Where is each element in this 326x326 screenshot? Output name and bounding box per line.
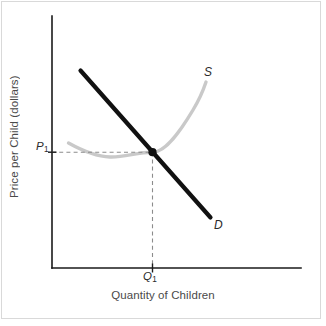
supply-demand-figure: Price per Child (dollars) Quantity of Ch… bbox=[0, 0, 326, 326]
quantity-equilibrium-subscript: 1 bbox=[152, 275, 157, 284]
supply-curve-label: S bbox=[204, 66, 212, 78]
plot-canvas bbox=[0, 0, 326, 326]
price-equilibrium-label: P1 bbox=[36, 141, 48, 153]
quantity-equilibrium-letter: Q bbox=[143, 270, 152, 282]
demand-curve-label: D bbox=[214, 219, 223, 231]
demand-curve-path bbox=[81, 71, 211, 218]
supply-curve-path bbox=[69, 82, 207, 157]
quantity-equilibrium-label: Q1 bbox=[143, 271, 157, 283]
price-equilibrium-letter: P bbox=[36, 140, 44, 152]
y-axis-title: Price per Child (dollars) bbox=[9, 62, 29, 212]
equilibrium-point-marker bbox=[148, 148, 156, 156]
x-axis-title: Quantity of Children bbox=[0, 290, 326, 302]
price-equilibrium-subscript: 1 bbox=[44, 145, 49, 154]
